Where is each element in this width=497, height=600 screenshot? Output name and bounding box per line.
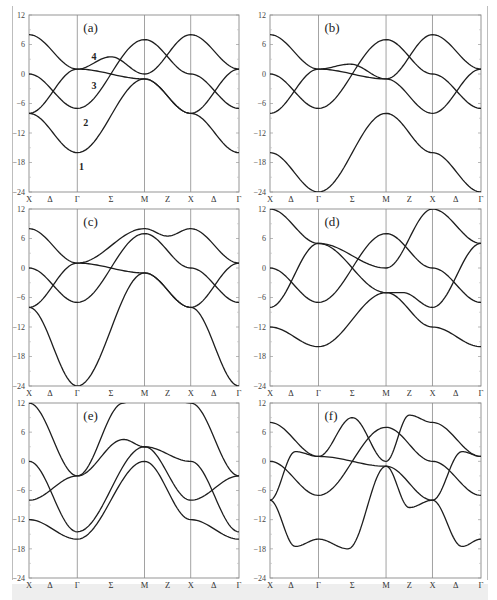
y-tick-label: −24 xyxy=(12,382,25,391)
k-point-label: Δ xyxy=(47,580,53,590)
k-point-label: X xyxy=(26,194,32,204)
y-tick-label: −6 xyxy=(16,293,25,302)
plot-frame xyxy=(270,403,481,578)
band-line xyxy=(29,263,239,307)
k-point-label: Δ xyxy=(47,388,53,398)
band-line xyxy=(29,384,239,476)
y-tick-label: 6 xyxy=(262,428,266,437)
k-point-label: X xyxy=(267,388,273,398)
k-point-label: Δ xyxy=(288,580,294,590)
y-tick-label: −12 xyxy=(12,323,25,332)
band-line xyxy=(270,466,481,549)
y-tick-label: 6 xyxy=(21,40,25,49)
k-point-label: Γ xyxy=(479,194,484,204)
y-tick-label: −12 xyxy=(12,515,25,524)
k-point-label: Z xyxy=(407,388,412,398)
k-point-label: M xyxy=(382,580,390,590)
y-tick-label: −6 xyxy=(257,99,266,108)
k-point-label: Γ xyxy=(479,388,484,398)
y-tick-label: 0 xyxy=(262,457,266,466)
k-point-label: Σ xyxy=(350,388,355,398)
band-line xyxy=(29,461,239,539)
k-point-label: Δ xyxy=(288,388,294,398)
band-line xyxy=(270,209,481,268)
k-point-label: Δ xyxy=(288,194,294,204)
k-point-label: Γ xyxy=(316,580,321,590)
y-tick-label: 12 xyxy=(258,11,266,20)
k-point-label: X xyxy=(188,388,194,398)
k-point-label: Σ xyxy=(350,194,355,204)
k-point-label: M xyxy=(141,194,149,204)
k-point-label: Z xyxy=(407,580,412,590)
k-point-label: X xyxy=(267,194,273,204)
panel-label: (b) xyxy=(325,20,340,35)
k-point-label: Δ xyxy=(211,194,217,204)
band-line xyxy=(270,415,481,461)
y-tick-label: 6 xyxy=(262,40,266,49)
k-point-label: M xyxy=(141,388,149,398)
panel-a: 1260−6−12−18−24XΔΓΣMZXΔΓ(a)1234 xyxy=(12,11,241,204)
k-point-label: Γ xyxy=(479,580,484,590)
k-point-label: X xyxy=(188,580,194,590)
panel-label: (d) xyxy=(325,214,340,229)
band-line xyxy=(29,79,239,153)
k-point-label: Δ xyxy=(453,580,459,590)
k-point-label: Γ xyxy=(75,194,80,204)
band-line xyxy=(29,273,239,386)
k-point-label: Δ xyxy=(47,194,53,204)
k-point-label: Γ xyxy=(75,388,80,398)
y-tick-label: −24 xyxy=(253,382,266,391)
k-point-label: X xyxy=(188,194,194,204)
y-tick-label: −18 xyxy=(253,352,266,361)
k-point-label: M xyxy=(382,388,390,398)
plot-frame xyxy=(29,403,239,578)
panel-label: (f) xyxy=(325,408,338,423)
band-structure-figure: 1260−6−12−18−24XΔΓΣMZXΔΓ(a)12341260−6−12… xyxy=(0,0,497,600)
y-tick-label: −6 xyxy=(257,293,266,302)
k-point-label: Z xyxy=(165,580,170,590)
band-line xyxy=(29,40,239,109)
band-index-label: 4 xyxy=(92,51,97,62)
panel-e: 1260−6−12−18−24XΔΓΣMZXΔΓ(e) xyxy=(12,384,241,590)
panel-d: 1260−6−12−18−24XΔΓΣMZXΔΓ(d) xyxy=(253,205,483,398)
panel-b: 1260−6−12−18−24XΔΓΣMZXΔΓ(b) xyxy=(253,11,483,204)
band-index-label: 2 xyxy=(83,117,88,128)
y-tick-label: −18 xyxy=(253,158,266,167)
y-tick-label: −24 xyxy=(12,574,25,583)
band-line xyxy=(29,35,239,74)
band-line xyxy=(270,40,481,109)
y-tick-label: −6 xyxy=(16,486,25,495)
k-point-label: X xyxy=(267,580,273,590)
y-tick-label: 12 xyxy=(258,205,266,214)
y-tick-label: −6 xyxy=(16,99,25,108)
y-tick-label: −18 xyxy=(253,545,266,554)
y-tick-label: −18 xyxy=(12,545,25,554)
k-point-label: M xyxy=(382,194,390,204)
y-tick-label: 12 xyxy=(17,399,25,408)
band-index-label: 1 xyxy=(79,161,84,172)
k-point-label: Z xyxy=(165,194,170,204)
band-line xyxy=(29,447,239,532)
k-point-label: Z xyxy=(165,388,170,398)
k-point-label: Δ xyxy=(211,580,217,590)
k-point-label: Δ xyxy=(453,194,459,204)
k-point-label: Γ xyxy=(237,194,242,204)
panel-f: 1260−6−12−18−24XΔΓΣMZXΔΓ(f) xyxy=(253,399,483,590)
y-tick-label: −24 xyxy=(12,188,25,197)
k-point-label: Γ xyxy=(237,580,242,590)
panel-label: (a) xyxy=(83,20,97,35)
k-point-label: X xyxy=(26,388,32,398)
band-line xyxy=(270,243,481,307)
band-line xyxy=(270,35,481,79)
y-tick-label: 12 xyxy=(17,205,25,214)
band-line xyxy=(29,229,239,263)
band-line xyxy=(29,234,239,303)
y-tick-label: −12 xyxy=(12,129,25,138)
band-index-label: 3 xyxy=(92,80,97,91)
y-tick-label: −12 xyxy=(253,129,266,138)
k-point-label: Σ xyxy=(350,580,355,590)
band-line xyxy=(270,293,481,347)
k-point-label: X xyxy=(26,580,32,590)
y-tick-label: −18 xyxy=(12,352,25,361)
k-point-label: Γ xyxy=(316,388,321,398)
